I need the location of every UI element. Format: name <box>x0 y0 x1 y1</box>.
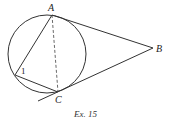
label-a: A <box>47 2 55 13</box>
label-c: C <box>55 94 62 105</box>
label-b: B <box>156 43 162 54</box>
chord-a-c-dashed <box>52 15 58 92</box>
geometry-diagram: A B C 1 Ex. 15 <box>0 0 169 122</box>
tangent-a-b <box>52 15 153 48</box>
circle <box>8 15 86 93</box>
angle-label-1: 1 <box>21 66 26 76</box>
caption: Ex. 15 <box>73 109 97 119</box>
